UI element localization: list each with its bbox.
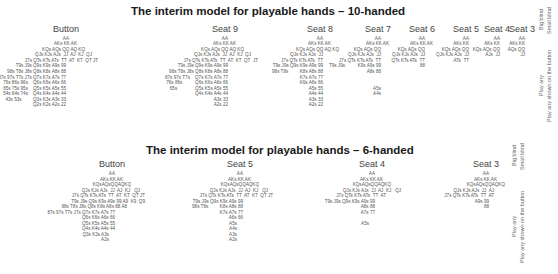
seat-title: Seat 5 xyxy=(453,24,479,34)
hand-row: J7s QTs KTs ATs TT AT KT QT JT xyxy=(72,193,145,198)
hand-row: 98s T8s J8s Q8s K8s A8s 88 xyxy=(7,69,66,74)
hand-row: T9s J9s Q9s K9s A9s 99 xyxy=(178,63,228,68)
hand-row: A4s xyxy=(373,91,381,96)
seat-title: Seat 9 xyxy=(212,24,238,34)
hand-row: 98s T8s K8s A8s 88 xyxy=(272,69,323,74)
hand-row: AJs JJ xyxy=(485,52,500,57)
hand-row: Q2s K2s A2s 22 xyxy=(33,102,66,107)
label-play-any-shown-on-button: Play any shown on the button xyxy=(546,50,552,122)
hand-row: AKs KK xyxy=(453,41,469,46)
hand-row: J7s QTs KTs ATs TT AT xyxy=(336,193,386,198)
hand-row: AA xyxy=(109,171,115,176)
hand-row: AKs KK AK xyxy=(54,41,77,46)
hand-row: AA xyxy=(237,171,243,176)
hand-row: T9s J9s Q9s K9s A9s 99 xyxy=(273,63,323,68)
hand-row: A8s 88 xyxy=(361,204,375,209)
hand-row: 88 xyxy=(420,63,425,68)
hand-row: AA xyxy=(369,171,375,176)
hand-row: KQsAQsQQAQKQ xyxy=(221,182,259,187)
hand-row: J7s QTs KTs ATs TT AT xyxy=(444,193,494,198)
seat-title: Seat 8 xyxy=(307,24,333,34)
hand-row: J7s QTs KTs ATs TT AT KT QT JT xyxy=(200,193,273,198)
label-big-blind: Big blind xyxy=(538,9,544,30)
hand-row: A2s xyxy=(101,237,109,242)
hand-row: T9s J9s K9s A9s 99 xyxy=(329,63,381,68)
hand-row: A8s 88 xyxy=(367,69,381,74)
hand-row: A2s 22 xyxy=(214,102,228,107)
hand-row: ATs TT xyxy=(454,58,469,63)
hand-row: T9s J9s Q9s K9s A9s 99 xyxy=(16,63,66,68)
hand-row: A7s 77 xyxy=(361,210,375,215)
hand-row: A6s 66 xyxy=(229,215,243,220)
hand-row: 54s 64s 74s Q4s K4s A4s 44 xyxy=(3,91,66,96)
hand-row: AKs KK AK xyxy=(366,41,389,46)
label-play-any: Play any xyxy=(538,75,544,96)
hand-row: A4s xyxy=(229,226,237,231)
hand-row: Q4s K4s A4s 44 xyxy=(82,226,115,231)
bottom-chart-title: The interim model for playable hands – 6… xyxy=(146,144,414,156)
hand-row: AKs KK AK xyxy=(410,41,433,46)
hand-row: Q4s K4s A4s 44 xyxy=(195,91,228,96)
hand-row: QJs KJs AJs JJ xyxy=(348,52,381,57)
hand-row: QJs KJs AJs JJ AJ KJ QJ xyxy=(35,52,92,57)
hand-row: 98s T8s J8s Q8s K8s A8s 88 A8 xyxy=(61,204,127,209)
seat-title: Seat 5 xyxy=(227,159,253,169)
seat-title: Seat 3 xyxy=(473,159,499,169)
hand-row: KQsAQsQQAQKQ xyxy=(467,182,505,187)
hand-row: QJs KJs AJs JJ AJ KJ QJ xyxy=(194,52,251,57)
label-small-blind: Small blind xyxy=(546,7,552,34)
seat-title: Button xyxy=(53,24,79,34)
seat-title: Seat 6 xyxy=(409,24,435,34)
hand-row: AKs KK AK xyxy=(308,41,331,46)
seat-title: Button xyxy=(99,159,125,169)
label-play-any-shown-on-button: Play any shown on the button xyxy=(519,191,525,263)
hand-row: AA xyxy=(483,171,489,176)
hand-row: QJs KJs AJs JJ xyxy=(436,52,469,57)
seat-title: Seat 4 xyxy=(484,24,510,34)
hand-row: 98s T8s J8s Q8s K8s A8s 88 xyxy=(169,69,228,74)
hand-row: QJs KJs AJs JJ xyxy=(290,52,323,57)
hand-row: JJ xyxy=(520,52,525,57)
hand-row: 76s 86s Q6s K6s A6s 66 xyxy=(166,80,228,85)
hand-row: KQsAQsQQAQKQ xyxy=(353,182,391,187)
top-chart-title: The interim model for playable hands – 1… xyxy=(131,5,405,17)
hand-row: A4s 44 xyxy=(309,91,323,96)
hand-row: Q6s K6s A6s 66 xyxy=(82,215,115,220)
seat-title: Seat 3 xyxy=(509,24,535,34)
hand-row: A2s xyxy=(229,237,237,242)
hand-row: AKs KK xyxy=(484,41,500,46)
hand-row: A5s xyxy=(361,221,369,226)
hand-row: A2s 22 xyxy=(309,102,323,107)
seat-title: Seat 7 xyxy=(365,24,391,34)
seat-title: Seat 4 xyxy=(359,159,385,169)
label-play-any: Play any xyxy=(511,216,517,237)
hand-row: QJs KJs AJs JJ xyxy=(392,52,425,57)
hand-row: 88 xyxy=(484,204,489,209)
label-small-blind: Small blind xyxy=(519,143,525,170)
hand-row: 98s T8s K8s A8s 88 xyxy=(192,204,243,209)
hand-row: AKs KK xyxy=(509,41,525,46)
hand-row: 76s 86s 96s Q6s K6s A6s 66 xyxy=(3,80,66,85)
hand-row: KQsAQsQQAQKQ xyxy=(93,182,131,187)
hand-row: K6s A6s 66 xyxy=(300,80,323,85)
hand-row: AKs KK AK xyxy=(213,41,236,46)
label-big-blind: Big blind xyxy=(511,145,517,166)
